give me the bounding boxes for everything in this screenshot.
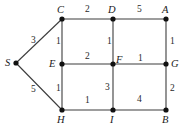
edge-weight-c-e: 1 <box>56 37 61 47</box>
graph-node-a <box>163 16 168 21</box>
graph-figure: 35251112113214SCDAEFGHIB <box>0 0 182 128</box>
node-label-e: E <box>49 59 55 70</box>
graph-node-b <box>163 107 168 112</box>
graph-node-d <box>110 16 115 21</box>
edge-weight-d-a: 5 <box>137 5 142 15</box>
edge-weight-c-d: 2 <box>85 5 90 15</box>
graph-node-e <box>59 61 64 66</box>
edge-weight-f-i: 3 <box>105 83 110 93</box>
graph-node-i <box>110 107 115 112</box>
node-label-b: B <box>162 115 168 126</box>
graph-node-g <box>163 61 168 66</box>
graph-canvas <box>0 0 182 128</box>
node-label-g: G <box>171 59 179 70</box>
edge-weight-g-b: 2 <box>170 84 175 94</box>
graph-node-s <box>13 60 18 65</box>
node-label-i: I <box>110 115 114 126</box>
node-label-f: F <box>116 55 122 66</box>
graph-node-c <box>59 16 64 21</box>
edge-weight-s-h: 5 <box>31 85 36 95</box>
edge-weight-a-g: 1 <box>170 37 175 47</box>
graph-node-f <box>110 61 115 66</box>
node-label-c: C <box>57 5 64 16</box>
node-label-h: H <box>57 115 65 126</box>
edge-weight-e-h: 1 <box>56 84 61 94</box>
graph-node-h <box>59 107 64 112</box>
edge-weight-f-g: 1 <box>138 54 143 64</box>
edge-weight-d-f: 1 <box>107 37 112 47</box>
edge-weight-i-b: 4 <box>137 95 142 105</box>
edge-weight-s-c: 3 <box>31 36 36 46</box>
node-label-d: D <box>108 5 116 16</box>
node-label-a: A <box>162 5 168 16</box>
edge-layer <box>16 19 166 110</box>
edge-weight-h-i: 1 <box>85 96 90 106</box>
edge-weight-e-f: 2 <box>85 52 90 62</box>
node-label-s: S <box>5 58 10 69</box>
